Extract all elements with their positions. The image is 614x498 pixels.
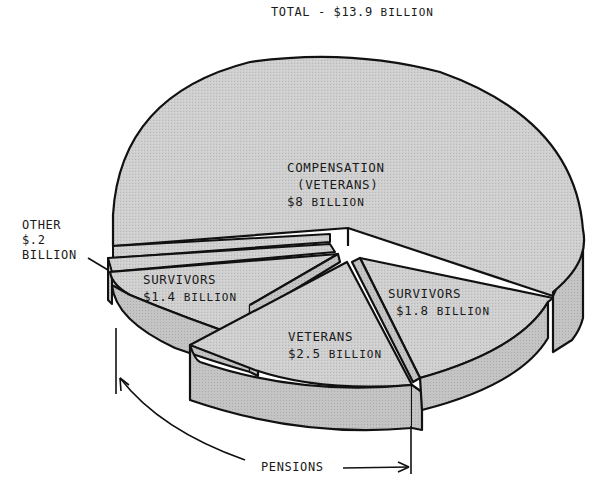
label-other: OTHER $.2 BILLION [22, 218, 77, 263]
label-veterans: VETERANS $2.5 BILLION [288, 328, 382, 363]
label-survivors-left-amount: $1.4 [143, 289, 176, 304]
label-compensation-line1: COMPENSATION [287, 159, 385, 176]
label-survivors-left-unit: BILLION [184, 291, 237, 304]
label-compensation-unit: BILLION [311, 196, 364, 209]
label-survivors-left: SURVIVORS $1.4 BILLION [143, 271, 237, 306]
other-leader-line [88, 258, 108, 270]
label-other-amount: $.2 [22, 233, 77, 248]
chart-title: TOTAL - $13.9 BILLION [271, 4, 434, 21]
label-veterans-amount: $2.5 [288, 346, 321, 361]
label-compensation: COMPENSATION (VETERANS) $8 BILLION [287, 159, 385, 211]
pie-chart [0, 0, 614, 498]
label-other-unit: BILLION [22, 248, 77, 263]
label-survivors-left-line1: SURVIVORS [143, 271, 237, 288]
label-pensions: PENSIONS [261, 459, 324, 476]
label-survivors-right-line1: SURVIVORS [388, 285, 490, 302]
label-compensation-amount: $8 [287, 194, 303, 209]
label-compensation-line2: (VETERANS) [287, 176, 385, 193]
label-veterans-unit: BILLION [329, 348, 382, 361]
label-survivors-right: SURVIVORS $1.8 BILLION [388, 285, 490, 320]
title-amount: TOTAL - $13.9 [271, 5, 373, 19]
label-survivors-right-unit: BILLION [437, 305, 490, 318]
label-survivors-right-amount: $1.8 [396, 303, 429, 318]
label-other-line1: OTHER [22, 218, 77, 233]
label-veterans-line1: VETERANS [288, 328, 382, 345]
title-unit: BILLION [381, 6, 434, 19]
